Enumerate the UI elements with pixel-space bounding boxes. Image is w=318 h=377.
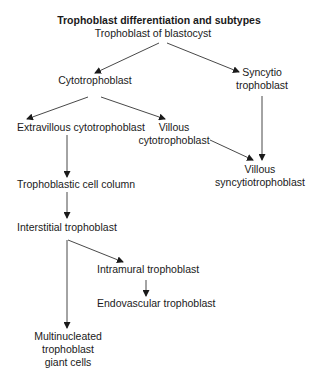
arrow-cyto-to-villouscyto [101, 97, 165, 119]
node-extravillous-cytotrophoblast: Extravillous cytotrophoblast [17, 121, 145, 134]
node-trophoblastic-cell-column: Trophoblastic cell column [17, 178, 135, 191]
node-trophoblast-of-blastocyst: Trophoblast of blastocyst [95, 27, 211, 40]
node-syncytio-line2: trophoblast [236, 79, 288, 92]
node-giant-line2: trophoblast [34, 343, 102, 356]
node-syncytiotrophoblast: Syncytio trophoblast [236, 66, 288, 92]
node-multinucleated-giant-cells: Multinucleated trophoblast giant cells [34, 330, 102, 369]
node-giant-line3: giant cells [34, 356, 102, 369]
arrow-cyto-to-extravillous [27, 97, 88, 119]
arrow-interstitial-to-intramural [68, 240, 123, 262]
arrow-villouscyto-to-villoussyn [210, 140, 253, 160]
node-syncytio-line1: Syncytio [236, 66, 288, 79]
diagram-title: Trophoblast differentiation and subtypes [57, 14, 261, 26]
node-interstitial-trophoblast: Interstitial trophoblast [17, 221, 117, 234]
node-villous-cytotrophoblast: Villous cytotrophoblast [138, 121, 209, 147]
node-cytotrophoblast: Cytotrophoblast [58, 74, 132, 87]
node-intramural-trophoblast: Intramural trophoblast [97, 263, 199, 276]
arrow-root-to-cyto [95, 43, 159, 73]
node-villous-syn-line2: syncytiotrophoblast [215, 176, 305, 189]
node-villous-syn-line1: Villous [215, 163, 305, 176]
node-giant-line1: Multinucleated [34, 330, 102, 343]
node-villous-syncytiotrophoblast: Villous syncytiotrophoblast [215, 163, 305, 189]
node-villous-cyto-line1: Villous [138, 121, 209, 134]
node-endovascular-trophoblast: Endovascular trophoblast [97, 297, 216, 310]
arrow-root-to-syncytio [167, 43, 239, 72]
node-villous-cyto-line2: cytotrophoblast [138, 134, 209, 147]
